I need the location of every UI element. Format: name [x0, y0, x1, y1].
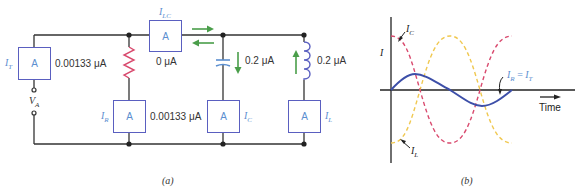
current-arrows: [192, 26, 300, 75]
resistor-current-ammeter: A: [113, 100, 146, 133]
ir-it-curve-label: IR = IT: [507, 70, 533, 83]
inductor-current-value: 0.2 μA: [317, 56, 346, 66]
ic-curve-label: IC: [406, 23, 414, 37]
lc-current-label: ILC: [159, 7, 171, 20]
waveform-axes: [380, 17, 575, 163]
total-current-ammeter: A: [18, 47, 51, 80]
capacitor-current-label: IC: [244, 111, 252, 124]
ammeter-glyph: A: [31, 58, 38, 69]
resistor-current-label: IR: [101, 111, 109, 124]
ammeter-glyph: A: [126, 111, 133, 122]
inductor-current-label: IL: [325, 111, 332, 124]
total-current-reading: 0.00133 μA: [55, 59, 106, 69]
total-current-label: IT: [5, 58, 12, 71]
capacitor-current-ammeter: A: [207, 100, 240, 133]
ammeter-glyph: A: [162, 31, 169, 42]
lc-current-ammeter: A: [149, 20, 182, 52]
source-voltage-label: VA: [29, 95, 39, 109]
inductor-current-ammeter: A: [288, 100, 321, 133]
time-arrow: [540, 95, 561, 100]
resistor-symbol: [124, 47, 134, 78]
caption-b: (b): [461, 175, 473, 186]
ammeter-glyph: A: [301, 111, 308, 122]
capacitor-symbol: [216, 60, 230, 66]
circuit-and-waveform-graphics: [0, 0, 575, 194]
y-axis-label: I: [380, 47, 383, 58]
capacitor-current-value: 0.2 μA: [245, 56, 274, 66]
x-axis-label: Time: [539, 102, 561, 113]
caption-a: (a): [162, 175, 174, 186]
ammeter-glyph: A: [220, 111, 227, 122]
il-curve-label: IL: [411, 145, 418, 159]
resistor-current-reading: 0.00133 μA: [150, 112, 201, 122]
lc-current-reading: 0 μA: [156, 57, 177, 67]
inductor-symbol: [304, 42, 310, 80]
